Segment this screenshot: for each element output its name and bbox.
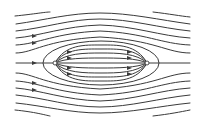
outer-streamlines-upper — [15, 12, 190, 53]
source-point — [53, 61, 57, 65]
outer-streamlines-lower — [15, 73, 190, 116]
streamline-plot — [0, 0, 201, 127]
rankine-oval-diagram — [0, 0, 201, 127]
sink-point — [145, 61, 149, 65]
